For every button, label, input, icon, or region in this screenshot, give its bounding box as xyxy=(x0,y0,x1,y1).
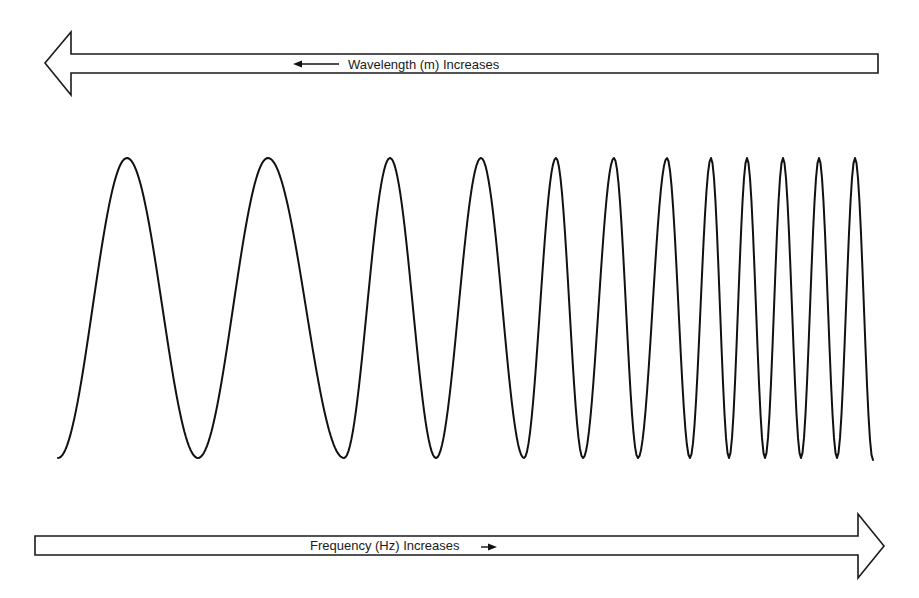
wave-diagram xyxy=(0,0,919,598)
chirp-wave xyxy=(58,158,873,460)
wavelength-label: Wavelength (m) Increases xyxy=(348,58,499,71)
frequency-label: Frequency (Hz) Increases xyxy=(310,539,460,552)
